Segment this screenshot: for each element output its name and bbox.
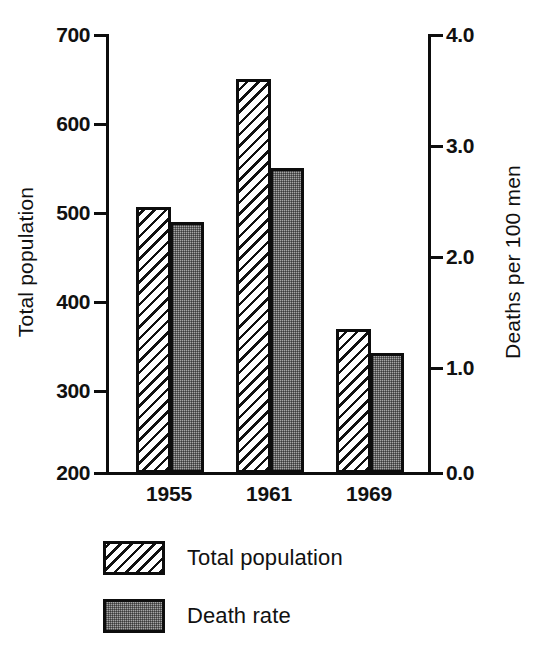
right-tick-mark [431,367,443,370]
left-tick-mark [94,301,106,304]
left-tick-mark [94,212,106,215]
right-tick-mark [431,472,443,475]
right-tick-label: 1.0 [446,357,474,378]
category-label-1961: 1961 [219,482,319,506]
right-axis-title: Deaths per 100 men [501,147,525,377]
legend-swatch-stipple-icon [103,599,165,633]
left-axis-title: Total population [14,152,38,372]
right-tick-label: 2.0 [446,246,474,267]
bar-total-population-1961 [236,79,271,473]
left-tick-mark [94,390,106,393]
category-label-1969: 1969 [319,482,419,506]
legend-label-total-population: Total population [187,545,343,571]
left-tick-label: 500 [56,202,90,223]
right-tick-mark [431,256,443,259]
legend-label-death-rate: Death rate [187,603,291,629]
legend-item-total-population: Total population [103,538,343,578]
bar-chart-figure: 700 600 500 400 300 200 4.0 3.0 2.0 1.0 … [0,0,538,659]
right-tick-mark [431,34,443,37]
category-label-1955: 1955 [119,482,219,506]
right-tick-label: 4.0 [446,24,474,45]
bar-death-rate-1969 [370,353,404,473]
right-tick-label: 0.0 [446,462,474,483]
left-tick-mark [94,34,106,37]
bar-total-population-1955 [136,207,171,473]
left-tick-mark [94,123,106,126]
left-tick-mark [94,472,106,475]
legend: Total population Death rate [103,538,343,654]
bar-death-rate-1955 [170,222,204,473]
left-tick-label: 700 [56,24,90,45]
left-tick-label: 400 [56,291,90,312]
legend-swatch-hatch-icon [103,541,165,575]
left-tick-label: 600 [56,113,90,134]
plot-area [106,34,430,473]
right-tick-mark [431,145,443,148]
bar-total-population-1969 [336,329,371,473]
left-tick-label: 300 [56,380,90,401]
bar-death-rate-1961 [270,168,304,473]
left-tick-label: 200 [56,462,90,483]
right-tick-label: 3.0 [446,135,474,156]
legend-item-death-rate: Death rate [103,596,343,636]
